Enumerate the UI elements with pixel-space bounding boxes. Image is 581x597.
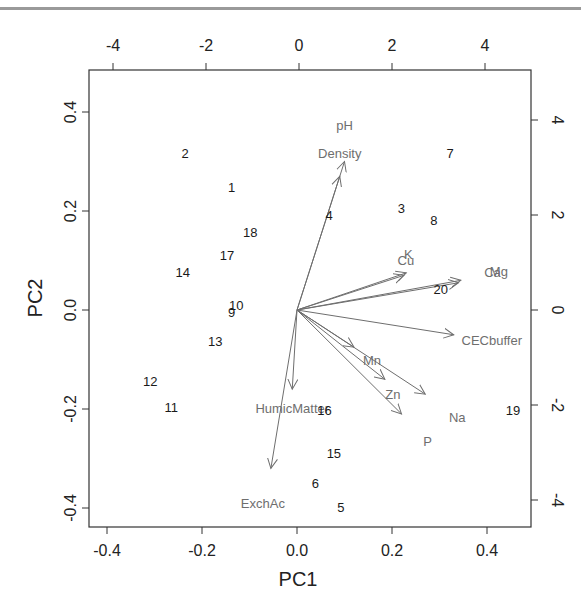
loading-label-cu: Cu (398, 253, 415, 268)
observation-label: 4 (326, 208, 333, 223)
x-tick-label: 0.2 (381, 542, 403, 559)
top-tick-label: -2 (199, 37, 213, 54)
top-tick-label: -4 (106, 37, 120, 54)
observation-label: 17 (220, 248, 234, 263)
loading-label-mg: Mg (490, 264, 508, 279)
loading-arrow-p (297, 310, 402, 414)
loading-arrows: pHDensityKCuCaMgCECbufferMnZnNaPHumicMat… (241, 118, 523, 512)
y-tick-label: 0.4 (62, 101, 79, 123)
right-tick-label: 2 (549, 211, 566, 220)
x-tick-label: 0.4 (476, 542, 498, 559)
observation-label: 19 (506, 403, 520, 418)
right-tick-label: -2 (549, 398, 566, 412)
observation-label: 5 (337, 500, 344, 515)
observation-label: 3 (398, 201, 405, 216)
loading-label-na: Na (449, 410, 466, 425)
observation-label: 6 (312, 476, 319, 491)
biplot-chart: -0.4-0.20.00.20.4 0.40.20.0-0.2-0.4 -4-2… (0, 0, 581, 597)
loading-arrow-na (297, 310, 425, 394)
loading-arrow-density (297, 176, 340, 310)
left-axis: 0.40.20.0-0.2-0.4 (62, 101, 89, 522)
right-tick-label: 4 (549, 116, 566, 125)
loading-label-density: Density (318, 146, 362, 161)
y-tick-label: 0.2 (62, 200, 79, 222)
observation-label: 13 (208, 334, 222, 349)
loading-label-exchac: ExchAc (241, 496, 286, 511)
loading-label-cecbuffer: CECbuffer (462, 333, 523, 348)
observation-label: 10 (229, 298, 243, 313)
y-tick-label: -0.2 (62, 395, 79, 423)
plot-frame (89, 70, 531, 527)
top-tick-label: 0 (295, 37, 304, 54)
y-tick-label: 0.0 (62, 299, 79, 321)
observation-label: 11 (164, 400, 178, 415)
observation-label: 2 (181, 146, 188, 161)
loading-arrow-cecbuffer (297, 310, 454, 335)
y-axis-title: PC2 (24, 279, 46, 318)
x-tick-label: -0.4 (93, 542, 121, 559)
loading-label-p: P (423, 434, 432, 449)
top-axis: -4-2024 (106, 37, 490, 70)
observation-label: 12 (143, 374, 157, 389)
right-tick-label: 0 (549, 306, 566, 315)
top-tick-label: 4 (481, 37, 490, 54)
bottom-axis: -0.4-0.20.00.20.4 (93, 527, 498, 559)
observation-label: 7 (447, 146, 454, 161)
observation-label: 16 (317, 403, 331, 418)
observation-label: 15 (327, 446, 341, 461)
top-tick-label: 2 (388, 37, 397, 54)
x-axis-title: PC1 (279, 568, 318, 590)
observation-label: 18 (243, 225, 257, 240)
y-tick-label: -0.4 (62, 494, 79, 522)
x-tick-label: 0.0 (286, 542, 308, 559)
loading-arrow-zn (297, 310, 385, 379)
observation-label: 14 (176, 265, 190, 280)
loading-arrow-exchac (271, 310, 297, 468)
observation-label: 20 (434, 282, 448, 297)
loading-label-ph: pH (336, 118, 353, 133)
x-tick-label: -0.2 (188, 542, 216, 559)
right-tick-label: -4 (549, 493, 566, 507)
observation-label: 8 (430, 213, 437, 228)
right-axis: 420-2-4 (531, 116, 566, 508)
observation-label: 1 (228, 180, 235, 195)
loading-arrow-cu (297, 275, 404, 310)
